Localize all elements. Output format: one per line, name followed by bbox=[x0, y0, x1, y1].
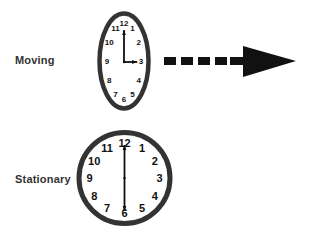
relativity-diagram: 121234567891011 121234567891011 bbox=[0, 0, 312, 237]
stationary-numeral-5: 5 bbox=[139, 202, 145, 214]
stationary-numeral-8: 8 bbox=[91, 190, 97, 202]
stationary-hand-pivot bbox=[123, 177, 125, 179]
stationary-numeral-11: 11 bbox=[101, 142, 113, 154]
moving-numeral-1: 1 bbox=[130, 24, 135, 33]
arrow-dash bbox=[215, 57, 227, 65]
moving-numeral-4: 4 bbox=[136, 76, 141, 85]
stationary-numeral-3: 3 bbox=[156, 172, 162, 184]
arrow-dash bbox=[198, 57, 210, 65]
motion-arrow bbox=[164, 46, 296, 77]
moving-numeral-9: 9 bbox=[105, 57, 110, 66]
moving-numeral-11: 11 bbox=[111, 24, 120, 33]
arrow-dash bbox=[164, 57, 176, 65]
moving-numeral-8: 8 bbox=[107, 76, 112, 85]
stationary-numeral-9: 9 bbox=[86, 172, 92, 184]
arrow-head bbox=[243, 46, 296, 77]
moving-numeral-7: 7 bbox=[113, 90, 118, 99]
moving-numeral-6: 6 bbox=[122, 95, 127, 104]
arrow-dashes bbox=[164, 57, 244, 65]
moving-numeral-12: 12 bbox=[120, 19, 129, 28]
stationary-numeral-1: 1 bbox=[139, 142, 145, 154]
stationary-clock: 121234567891011 bbox=[79, 133, 170, 224]
moving-numeral-10: 10 bbox=[105, 38, 114, 47]
moving-clock: 121234567891011 bbox=[100, 14, 149, 109]
stationary-numeral-2: 2 bbox=[152, 155, 158, 167]
stationary-numeral-10: 10 bbox=[88, 155, 100, 167]
arrow-dash bbox=[181, 57, 193, 65]
moving-hand-pivot bbox=[123, 61, 125, 63]
moving-numeral-3: 3 bbox=[139, 57, 144, 66]
moving-numeral-2: 2 bbox=[136, 38, 141, 47]
stationary-numeral-7: 7 bbox=[104, 202, 110, 214]
moving-numeral-5: 5 bbox=[130, 90, 135, 99]
stationary-numeral-4: 4 bbox=[152, 190, 159, 202]
arrow-dash bbox=[230, 57, 244, 65]
